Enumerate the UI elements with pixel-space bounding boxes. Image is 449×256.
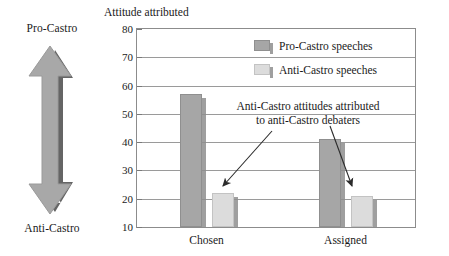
bar-assigned-pro-castro bbox=[319, 139, 341, 227]
y-tick-label: 80 bbox=[109, 23, 133, 35]
y-tick-label: 30 bbox=[109, 164, 133, 176]
annotation-line-2: to anti-Castro debaters bbox=[222, 114, 394, 128]
attitude-scale: Pro-Castro Anti-Castro bbox=[0, 0, 104, 256]
scale-bottom-label: Anti-Castro bbox=[0, 222, 104, 234]
bar-chart: Attitude attributed 1020304050607080Chos… bbox=[104, 0, 449, 256]
chart-legend: Pro-Castro speeches Anti-Castro speeches bbox=[254, 36, 377, 84]
y-tick-label: 20 bbox=[109, 193, 133, 205]
legend-swatch-anti-castro bbox=[254, 64, 270, 75]
legend-item: Anti-Castro speeches bbox=[254, 60, 377, 79]
bar-chosen-pro-castro bbox=[180, 94, 202, 227]
annotation-text: Anti-Castro attitudes attributed to anti… bbox=[222, 100, 394, 127]
x-axis-label-assigned: Assigned bbox=[324, 234, 367, 246]
y-tick-mark bbox=[137, 86, 142, 87]
figure-root: Pro-Castro Anti-Castro Attitude attribut… bbox=[0, 0, 449, 256]
y-tick-mark bbox=[137, 227, 142, 228]
legend-item: Pro-Castro speeches bbox=[254, 36, 377, 55]
y-tick-mark bbox=[137, 170, 142, 171]
y-tick-mark bbox=[137, 199, 142, 200]
bar-assigned-anti-castro bbox=[351, 196, 373, 227]
legend-label: Pro-Castro speeches bbox=[279, 40, 373, 52]
y-tick-label: 50 bbox=[109, 108, 133, 120]
annotation-line-1: Anti-Castro attitudes attributed bbox=[222, 100, 394, 114]
x-axis-label-chosen: Chosen bbox=[189, 234, 224, 246]
y-tick-mark bbox=[137, 142, 142, 143]
y-tick-mark bbox=[137, 114, 142, 115]
legend-label: Anti-Castro speeches bbox=[279, 64, 377, 76]
y-tick-label: 10 bbox=[109, 221, 133, 233]
y-tick-mark bbox=[137, 29, 142, 30]
y-tick-label: 70 bbox=[109, 51, 133, 63]
legend-swatch-pro-castro bbox=[254, 40, 270, 51]
y-tick-mark bbox=[137, 57, 142, 58]
scale-top-label: Pro-Castro bbox=[0, 22, 104, 34]
y-tick-label: 60 bbox=[109, 80, 133, 92]
double-headed-vertical-arrow-icon bbox=[0, 40, 104, 220]
grid-line bbox=[137, 86, 415, 87]
y-tick-label: 40 bbox=[109, 136, 133, 148]
chart-title: Attitude attributed bbox=[104, 6, 189, 18]
bar-chosen-anti-castro bbox=[212, 193, 234, 227]
